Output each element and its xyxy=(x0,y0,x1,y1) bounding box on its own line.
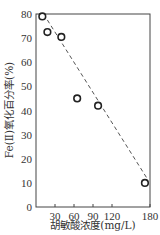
y-tick-label: 50 xyxy=(21,80,33,92)
y-tick-label: 40 xyxy=(21,105,33,117)
data-points xyxy=(39,13,148,186)
y-tick-label: 10 xyxy=(21,177,33,189)
y-tick-label: 0 xyxy=(27,201,33,213)
y-tick-label: 20 xyxy=(21,153,33,165)
plot-frame xyxy=(36,14,150,207)
plot-border xyxy=(36,14,150,207)
data-point-circle xyxy=(44,29,51,36)
data-point-circle xyxy=(58,34,65,41)
y-axis-title: Fe(Ⅱ)氧化百分率(%) xyxy=(3,62,15,158)
y-tick-label: 30 xyxy=(21,129,33,141)
data-point-circle xyxy=(74,95,81,102)
y-tick-label: 60 xyxy=(21,56,33,68)
y-axis-ticks: 01020304050607080 xyxy=(21,8,33,213)
x-axis-title: 胡敏酸浓度(mg/L) xyxy=(50,219,135,231)
y-tick-label: 70 xyxy=(21,32,33,44)
data-point-circle xyxy=(142,180,149,187)
scatter-chart: 01020304050607080 306090120180 胡敏酸浓度(mg/… xyxy=(0,0,160,235)
data-point-circle xyxy=(95,102,102,109)
x-tick-label: 180 xyxy=(142,210,159,222)
data-point-circle xyxy=(39,13,46,20)
y-tick-label: 80 xyxy=(21,8,33,20)
